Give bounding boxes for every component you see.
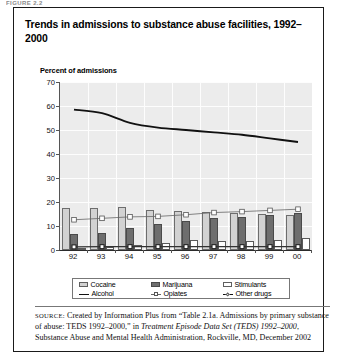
x-axis-tick-label: 96 (170, 252, 200, 261)
legend-item-opiates: Opiates (145, 290, 217, 298)
marker-opiates (296, 207, 301, 212)
x-axis-tick-mark (311, 250, 312, 253)
y-axis-tick-label: 20 (27, 198, 55, 207)
marker-opiates (268, 208, 273, 213)
x-axis-tick-label: 98 (226, 252, 256, 261)
source-divider (35, 306, 330, 307)
y-axis-tick-label: 60 (27, 102, 55, 111)
x-axis-tick-label: 00 (282, 252, 312, 261)
legend-item-cocaine: Cocaine (73, 281, 145, 289)
marker-opiates (128, 215, 133, 220)
marker-opiates (212, 210, 217, 215)
chart-area: 010203040506070 929394959697989900 (27, 78, 315, 258)
x-axis-tick-label: 92 (58, 252, 88, 261)
legend-swatch-marijuana-icon (151, 282, 160, 287)
marker-other-drugs (240, 245, 244, 249)
legend-label: Alcohol (92, 290, 114, 298)
legend-swatch-cocaine-icon (79, 282, 88, 287)
legend-item-other-drugs: Other drugs (217, 290, 289, 298)
y-axis-tick-label: 10 (27, 222, 55, 231)
legend-swatch-other-drugs-icon (223, 292, 233, 297)
legend-label: Opiates (164, 290, 187, 298)
marker-other-drugs (296, 245, 300, 249)
source-italic-title: Treatment Episode Data Set (TEDS) 1992–2… (141, 322, 297, 331)
marker-opiates (156, 214, 161, 219)
y-axis-title: Percent of admissions (40, 66, 117, 75)
y-axis-tick-label: 50 (27, 126, 55, 135)
marker-opiates (184, 212, 189, 217)
marker-other-drugs (72, 245, 76, 249)
x-axis-tick-label: 99 (254, 252, 284, 261)
marker-other-drugs (156, 245, 160, 249)
y-axis-tick-label: 70 (27, 78, 55, 87)
y-axis-tick-label: 0 (27, 246, 55, 255)
x-axis-tick-label: 97 (198, 252, 228, 261)
marker-other-drugs (268, 245, 272, 249)
x-axis-tick-label: 93 (86, 252, 116, 261)
x-axis-tick-label: 95 (142, 252, 172, 261)
figure-page: FIGURE 2.2 Trends in admissions to subst… (0, 0, 337, 359)
figure-frame: Trends in admissions to substance abuse … (13, 7, 324, 352)
cut-off-figure-label: FIGURE 2.2 (6, 0, 126, 6)
y-axis-tick-label: 40 (27, 150, 55, 159)
marker-other-drugs (128, 245, 132, 249)
legend-label: Other drugs (236, 290, 272, 298)
marker-other-drugs (100, 245, 104, 249)
marker-opiates (240, 209, 245, 214)
legend-item-marijuana: Marijuana (145, 281, 217, 289)
source-note: SOURCE: Created by Information Plus from… (35, 311, 331, 344)
legend-swatch-stimulants-icon (223, 282, 232, 287)
line-alcohol (74, 110, 298, 142)
legend-label: Cocaine (91, 281, 116, 289)
marker-other-drugs (184, 245, 188, 249)
plot-region (59, 82, 312, 251)
marker-opiates (72, 217, 77, 222)
line-series-layer (60, 82, 312, 250)
y-axis-tick-label: 30 (27, 174, 55, 183)
legend-item-alcohol: Alcohol (73, 290, 145, 298)
legend-item-stimulants: Stimulants (217, 281, 289, 289)
marker-other-drugs (212, 245, 216, 249)
legend-swatch-opiates-icon (151, 292, 161, 297)
legend-label: Marijuana (163, 281, 193, 289)
chart-legend: CocaineMarijuanaStimulantsAlcoholOpiates… (72, 278, 290, 299)
x-axis-tick-label: 94 (114, 252, 144, 261)
page-title: Trends in admissions to substance abuse … (25, 18, 305, 45)
marker-opiates (100, 216, 105, 221)
source-label: SOURCE: (35, 312, 65, 319)
legend-swatch-alcohol-icon (79, 292, 89, 297)
legend-label: Stimulants (235, 281, 267, 289)
